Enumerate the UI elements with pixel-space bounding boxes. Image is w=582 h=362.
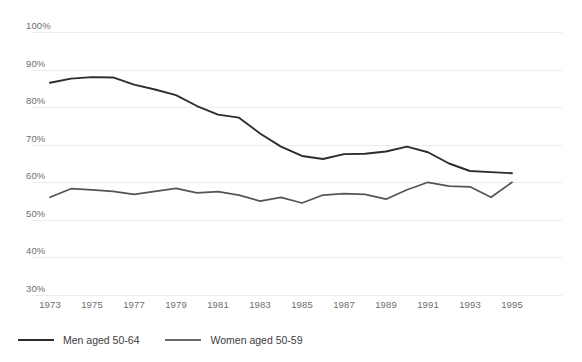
legend-item-men[interactable]: Men aged 50-64 <box>18 335 139 346</box>
series-line-men <box>50 77 512 173</box>
legend-item-women[interactable]: Women aged 50-59 <box>165 335 302 346</box>
legend-swatch-men-icon <box>18 339 54 341</box>
legend-swatch-women-icon <box>165 339 201 341</box>
series-layer <box>0 0 582 310</box>
plot-area: 100%90%80%70%60%50%40%30% 19731975197719… <box>0 0 582 310</box>
series-line-women <box>50 182 512 203</box>
line-chart: 100%90%80%70%60%50%40%30% 19731975197719… <box>0 0 582 362</box>
legend-label-men: Men aged 50-64 <box>63 335 139 346</box>
chart-legend: Men aged 50-64 Women aged 50-59 <box>0 325 582 355</box>
legend-label-women: Women aged 50-59 <box>210 335 302 346</box>
